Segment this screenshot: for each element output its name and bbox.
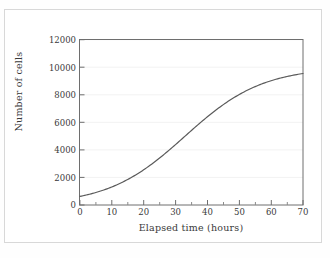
x-tick-label: 30 <box>163 207 189 217</box>
x-tick-label: 40 <box>195 207 221 217</box>
x-tick-label: 10 <box>99 207 125 217</box>
x-tick-label: 0 <box>67 207 93 217</box>
x-tick-label: 20 <box>131 207 157 217</box>
gridlines <box>80 40 303 178</box>
y-tick-label: 10000 <box>40 63 76 73</box>
chart-plot-area: 12000 10000 8000 6000 4000 2000 0 0 10 2… <box>0 0 330 258</box>
y-axis-label: Number of cells <box>13 37 24 147</box>
data-series-line <box>80 74 303 197</box>
x-axis-label: Elapsed time (hours) <box>79 222 303 233</box>
x-tick-label: 70 <box>290 207 316 217</box>
figure-canvas: 12000 10000 8000 6000 4000 2000 0 0 10 2… <box>0 0 330 258</box>
y-tick-label: 8000 <box>40 90 76 100</box>
x-tick-label: 50 <box>226 207 252 217</box>
y-tick-label: 12000 <box>40 35 76 45</box>
y-tick-label: 6000 <box>40 118 76 128</box>
y-tick-label: 2000 <box>40 173 76 183</box>
y-tick-label: 4000 <box>40 145 76 155</box>
x-tick-label: 60 <box>258 207 284 217</box>
y-axis-ticks <box>80 40 85 205</box>
